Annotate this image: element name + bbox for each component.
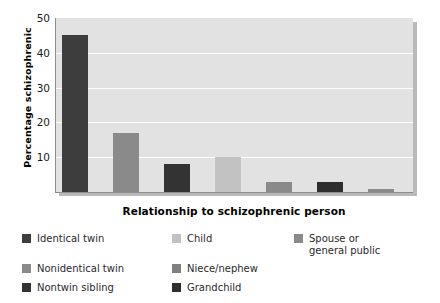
legend-item[interactable]: Child bbox=[172, 233, 294, 245]
legend: Identical twinChildSpouse or general pub… bbox=[22, 233, 432, 300]
legend-item[interactable]: Niece/nephew bbox=[172, 263, 294, 275]
legend-swatch-icon bbox=[172, 283, 181, 292]
y-tick-label: 20 bbox=[4, 117, 50, 127]
legend-row: Nontwin siblingGrandchild bbox=[22, 282, 432, 294]
legend-item[interactable]: Nonidentical twin bbox=[22, 263, 172, 275]
legend-swatch-icon bbox=[22, 234, 31, 243]
legend-label: Identical twin bbox=[37, 233, 104, 245]
plot-area bbox=[55, 18, 413, 192]
legend-label: Nonidentical twin bbox=[37, 263, 124, 275]
legend-item[interactable]: Identical twin bbox=[22, 233, 172, 245]
plot-region bbox=[55, 18, 413, 192]
y-tick-label: 30 bbox=[4, 83, 50, 93]
legend-swatch-icon bbox=[22, 264, 31, 273]
legend-swatch-icon bbox=[22, 283, 31, 292]
legend-label: Grandchild bbox=[187, 282, 241, 294]
bar bbox=[317, 182, 343, 192]
legend-label: Child bbox=[187, 233, 212, 245]
legend-label: Spouse or general public bbox=[309, 233, 380, 256]
bar bbox=[215, 157, 241, 192]
legend-item[interactable]: Nontwin sibling bbox=[22, 282, 172, 294]
bar-series bbox=[55, 18, 413, 192]
legend-row: Identical twinChildSpouse or general pub… bbox=[22, 233, 432, 256]
legend-item[interactable]: Spouse or general public bbox=[294, 233, 424, 256]
legend-swatch-icon bbox=[294, 234, 303, 243]
y-tick-label: 40 bbox=[4, 48, 50, 58]
bar-chart-figure: Percentage schizophrenic 5040302010 Rela… bbox=[0, 0, 440, 303]
x-axis-line bbox=[55, 192, 413, 193]
legend-swatch-icon bbox=[172, 234, 181, 243]
y-tick-label: 10 bbox=[4, 152, 50, 162]
legend-swatch-icon bbox=[172, 264, 181, 273]
legend-item[interactable]: Grandchild bbox=[172, 282, 294, 294]
bar bbox=[62, 35, 88, 192]
legend-label: Niece/nephew bbox=[187, 263, 258, 275]
bar bbox=[164, 164, 190, 192]
bar bbox=[113, 133, 139, 192]
bar bbox=[266, 182, 292, 192]
legend-row: Nonidentical twinNiece/nephew bbox=[22, 263, 432, 275]
y-tick-label: 50 bbox=[4, 13, 50, 23]
x-axis-title: Relationship to schizophrenic person bbox=[55, 205, 413, 217]
y-axis-line bbox=[55, 18, 56, 193]
legend-label: Nontwin sibling bbox=[37, 282, 114, 294]
